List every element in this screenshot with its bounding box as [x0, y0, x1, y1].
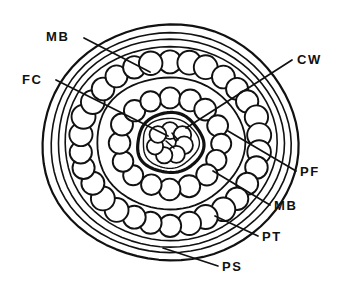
cw-wire [178, 175, 200, 197]
cw-wire [160, 87, 181, 108]
cw-wire [113, 151, 134, 172]
cable-cross-section-figure: MBFCCWPFMBPTPS [0, 0, 342, 293]
label-mb-right: MB [274, 198, 297, 213]
label-fc: FC [22, 72, 43, 87]
cw-wire [140, 91, 160, 111]
cw-wire [141, 174, 162, 195]
label-ps: PS [222, 259, 243, 274]
label-pt: PT [262, 229, 282, 244]
cw-wire [207, 115, 228, 136]
label-mb-top: MB [46, 29, 69, 44]
cable-diagram-svg: MBFCCWPFMBPTPS [0, 0, 342, 293]
label-pf: PF [300, 164, 320, 179]
label-cw: CW [297, 52, 322, 67]
pf-wire [159, 215, 181, 237]
